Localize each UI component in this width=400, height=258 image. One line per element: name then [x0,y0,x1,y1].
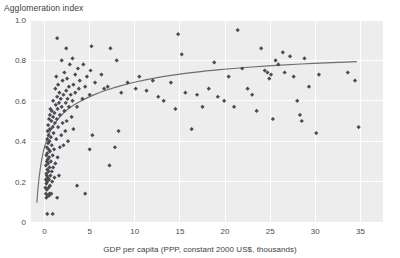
y-tick-label: 1.0 [15,16,27,25]
x-tick-label: 5 [87,227,92,236]
plot-background [31,20,383,222]
y-tick-label: 0.2 [15,178,27,187]
y-tick-label: 0.8 [15,56,27,65]
y-tick-label: 0 [22,218,27,227]
x-tick-label: 35 [356,227,365,236]
x-tick-label: 25 [266,227,275,236]
x-tick-label: 15 [175,227,184,236]
x-tick-label: 20 [221,227,230,236]
x-axis-ticks: 05101520253035 [42,227,365,236]
y-axis-ticks: 00.20.40.60.81.0 [15,16,27,227]
x-tick-label: 0 [42,227,47,236]
y-tick-label: 0.6 [15,97,27,106]
x-tick-label: 10 [130,227,139,236]
plot-canvas: 00.20.40.60.81.005101520253035 [0,0,400,258]
x-axis-title: GDP per capita (PPP, constant 2000 US$, … [0,245,400,254]
x-tick-label: 30 [311,227,320,236]
agglomeration-gdp-scatter-chart: Agglomeration index 00.20.40.60.81.00510… [0,0,400,258]
y-tick-label: 0.4 [15,137,27,146]
